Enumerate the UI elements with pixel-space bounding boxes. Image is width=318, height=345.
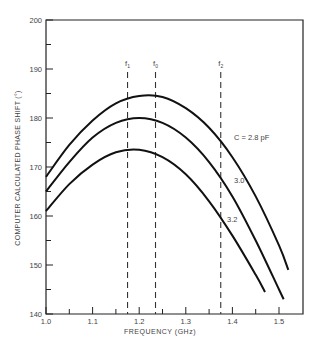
x-tick-label: 1.2 <box>134 317 144 326</box>
y-tick-label: 190 <box>29 65 42 74</box>
y-tick-label: 200 <box>29 16 42 25</box>
x-tick-label: 1.0 <box>41 317 51 326</box>
curve-label-2: 3.2 <box>227 215 237 224</box>
x-tick-label: 1.4 <box>227 317 237 326</box>
phase-curves <box>46 95 288 299</box>
x-axis-label: FREQUENCY (GHz) <box>124 328 196 336</box>
plot-border <box>46 20 303 314</box>
marker-label-f1: f1 <box>125 59 130 69</box>
marker-label-f0: f0 <box>153 59 158 69</box>
x-tick-label: 1.3 <box>181 317 191 326</box>
curve-label-1: 3.0 <box>234 176 244 185</box>
frequency-markers: f1f0f2 <box>125 59 223 314</box>
y-tick-label: 170 <box>29 163 42 172</box>
plot-frame <box>46 20 303 314</box>
marker-label-f2: f2 <box>218 59 223 69</box>
phase-shift-chart: 140150160170180190200 1.01.11.21.31.41.5… <box>0 0 318 345</box>
curve-label-0: C = 2.8 pF <box>234 133 270 142</box>
y-tick-label: 150 <box>29 261 42 270</box>
x-axis: 1.01.11.21.31.41.5 <box>41 307 284 326</box>
y-axis: 140150160170180190200 <box>29 16 53 319</box>
curve-1 <box>46 118 284 299</box>
y-tick-label: 160 <box>29 212 42 221</box>
x-tick-label: 1.5 <box>274 317 284 326</box>
x-tick-label: 1.1 <box>87 317 97 326</box>
y-tick-label: 180 <box>29 114 42 123</box>
y-axis-label: COMPUTER CALCULATED PHASE SHIFT (°) <box>14 90 22 245</box>
curve-0 <box>46 95 288 270</box>
